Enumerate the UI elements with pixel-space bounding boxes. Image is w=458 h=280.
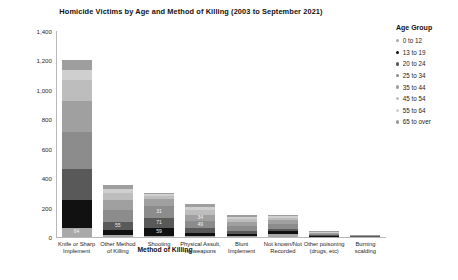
bar-segment[interactable]: 31	[144, 206, 174, 217]
bar-segment[interactable]	[62, 101, 92, 132]
bar-segment[interactable]	[268, 215, 298, 216]
legend-item[interactable]: 65 to over	[396, 116, 458, 128]
bar-segment[interactable]	[268, 229, 298, 232]
bar-segment[interactable]	[144, 199, 174, 206]
bar-stack[interactable]	[227, 215, 257, 237]
legend-swatch-icon	[396, 39, 399, 42]
bar-segment[interactable]	[62, 80, 92, 102]
chart-container: Homicide Victims by Age and Method of Ki…	[0, 0, 458, 280]
legend-item[interactable]: 13 to 19	[396, 47, 458, 59]
bar-segment[interactable]	[103, 193, 133, 200]
bar-segment[interactable]	[103, 185, 133, 189]
bar-segment[interactable]	[309, 234, 339, 235]
bar-segment[interactable]	[103, 200, 133, 210]
bar-segment[interactable]	[227, 222, 257, 226]
bar-segment[interactable]	[268, 224, 298, 228]
segment-value-label: 64	[62, 230, 92, 235]
bar-segment[interactable]: 34	[185, 215, 215, 221]
bar-segment[interactable]	[309, 232, 339, 233]
bar-segment[interactable]	[227, 234, 257, 236]
y-tick-label: 200	[42, 204, 52, 211]
bar-segment[interactable]: 55	[103, 222, 133, 231]
segment-value-label: 31	[144, 209, 174, 214]
bar-segment[interactable]	[185, 204, 215, 207]
bar-segment[interactable]	[350, 236, 380, 237]
y-tick-label: 800	[42, 116, 52, 123]
bar-segment[interactable]	[309, 236, 339, 237]
bar-segment[interactable]	[227, 219, 257, 222]
x-tick-label: Other poisoning (drugs, etc)	[304, 241, 345, 255]
legend-label: 55 to 64	[403, 107, 426, 114]
bar-segment[interactable]: 49	[185, 221, 215, 228]
bar-segment[interactable]	[62, 70, 92, 80]
bar-segment[interactable]	[62, 132, 92, 169]
legend-label: 13 to 19	[403, 49, 426, 56]
x-axis-line	[56, 237, 386, 238]
bar-stack[interactable]: 64	[62, 60, 92, 237]
legend-item[interactable]: 0 to 12	[396, 35, 458, 47]
bar-stack[interactable]: 55	[103, 185, 133, 237]
bar-segment[interactable]	[268, 218, 298, 221]
bar-segment[interactable]	[185, 233, 215, 236]
y-tick-label: 1,000	[37, 86, 52, 93]
y-tick-label: 1,200	[37, 57, 52, 64]
bar-segment[interactable]	[144, 194, 174, 196]
bar-segment[interactable]	[103, 235, 133, 237]
x-tick-label: Not known/Not Recorded	[262, 241, 303, 255]
chart-title: Homicide Victims by Age and Method of Ki…	[0, 7, 382, 16]
legend-item[interactable]: 45 to 54	[396, 93, 458, 105]
bar-segment[interactable]	[268, 234, 298, 237]
bar-segment[interactable]	[268, 231, 298, 233]
bar-segment[interactable]	[144, 196, 174, 200]
bar-segment[interactable]	[144, 236, 174, 237]
bar-segment[interactable]: 59	[144, 228, 174, 236]
bar-stack[interactable]	[350, 235, 380, 237]
legend-item[interactable]: 25 to 34	[396, 70, 458, 82]
bar-segment[interactable]	[185, 207, 215, 210]
bar-stack[interactable]	[309, 231, 339, 237]
x-tick-label: Blunt Implement	[221, 241, 262, 255]
legend-swatch-icon	[396, 74, 399, 77]
legend-label: 65 to over	[403, 118, 431, 125]
bar-segment[interactable]	[144, 193, 174, 194]
legend-swatch-icon	[396, 85, 399, 88]
y-tick-label: 400	[42, 175, 52, 182]
bar-segment[interactable]	[62, 200, 92, 227]
plot-area: 02004006008001,0001,2001,400 64555971314…	[56, 31, 386, 237]
bar-segment[interactable]	[268, 216, 298, 218]
bar-segment[interactable]	[103, 189, 133, 193]
bar-segment[interactable]: 64	[62, 228, 92, 237]
bar-segment[interactable]	[185, 236, 215, 237]
segment-value-label: 71	[144, 220, 174, 225]
segment-value-label: 49	[185, 222, 215, 227]
bar-stack[interactable]	[268, 215, 298, 237]
segment-value-label: 59	[144, 230, 174, 235]
legend-item[interactable]: 55 to 64	[396, 105, 458, 117]
y-tick-label: 600	[42, 145, 52, 152]
bar-segment[interactable]	[62, 169, 92, 200]
bar-segment[interactable]	[309, 235, 339, 236]
legend-item[interactable]: 20 to 24	[396, 58, 458, 70]
bar-stack[interactable]: 4934	[185, 204, 215, 237]
legend-item[interactable]: 35 to 44	[396, 81, 458, 93]
bar-segment[interactable]: 71	[144, 218, 174, 228]
bar-segment[interactable]	[185, 210, 215, 215]
bar-segment[interactable]	[185, 228, 215, 233]
y-tick-label: 0	[49, 234, 52, 241]
x-tick-label: Knife or Sharp Implement	[56, 241, 97, 255]
bar-segment[interactable]	[227, 236, 257, 237]
bar-segment[interactable]	[268, 220, 298, 224]
y-axis-line	[56, 31, 57, 237]
legend-label: 20 to 24	[403, 60, 426, 67]
bar-segment[interactable]	[309, 233, 339, 234]
bar-segment[interactable]	[227, 217, 257, 219]
bar-segment[interactable]	[62, 60, 92, 70]
legend-title: Age Group	[396, 24, 458, 31]
bar-segment[interactable]	[103, 230, 133, 234]
bar-segment[interactable]	[227, 215, 257, 217]
bar-segment[interactable]	[227, 231, 257, 234]
bar-segment[interactable]	[227, 226, 257, 231]
bar-segment[interactable]	[103, 210, 133, 222]
bar-stack[interactable]: 597131	[144, 193, 174, 237]
legend-swatch-icon	[396, 109, 399, 112]
